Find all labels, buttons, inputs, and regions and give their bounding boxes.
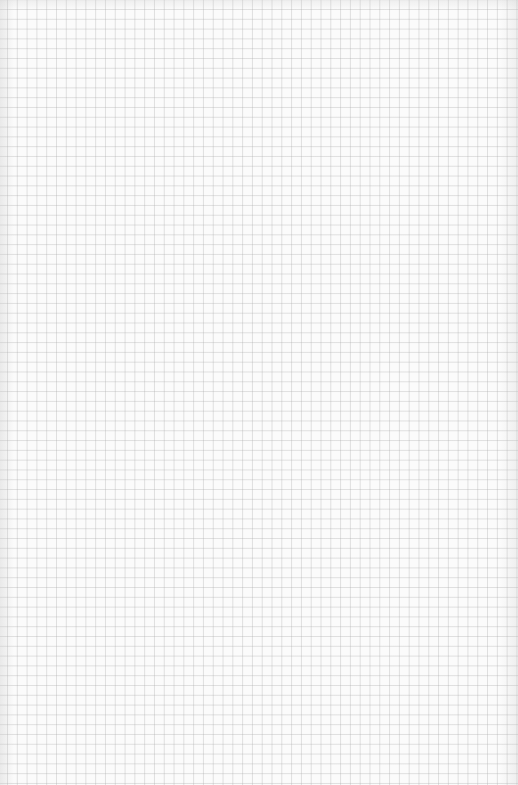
graph-paper-sheet	[0, 0, 518, 785]
paper-edge-shading	[0, 0, 518, 785]
